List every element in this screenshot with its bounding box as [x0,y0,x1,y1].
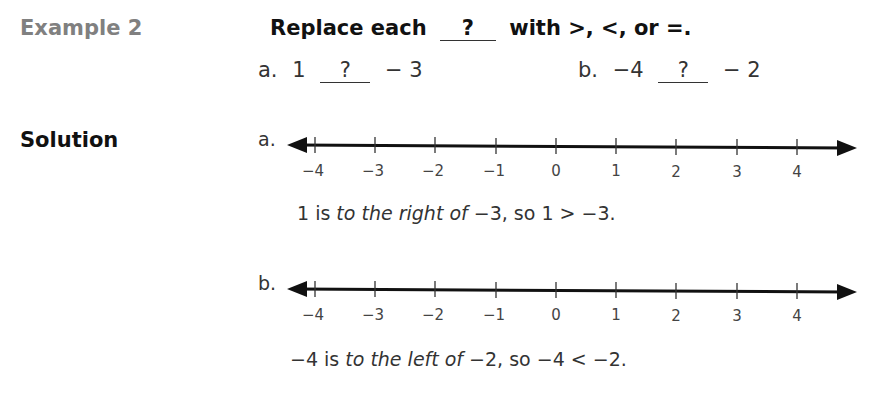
svg-text:−3: −3 [362,306,384,324]
svg-text:3: 3 [732,163,742,181]
svg-text:1: 1 [611,162,621,180]
right-arrow-icon [837,140,857,156]
solution-a-explanation: 1 is to the right of −3, so 1 > −3. [297,202,616,224]
svg-text:2: 2 [671,163,681,181]
explanation-a-end: −3, so 1 > −3. [468,202,616,224]
problem-b-label: b. [578,58,598,82]
problem-a-left: 1 [292,58,305,82]
svg-text:−1: −1 [483,306,505,324]
svg-text:−2: −2 [422,162,444,180]
svg-text:−2: −2 [422,306,444,324]
instruction-blank: ? [440,16,496,41]
instruction-suffix: with >, <, or =. [509,16,691,40]
problem-a-blank: ? [320,58,370,83]
number-line-a-graphic [287,137,857,156]
explanation-b-italic: to the left of [345,348,463,370]
left-arrow-icon [287,281,307,297]
problem-a-right: − 3 [385,58,423,82]
svg-text:1: 1 [611,306,621,324]
svg-text:3: 3 [732,307,742,325]
solution-b-explanation: −4 is to the left of −2, so −4 < −2. [290,348,627,370]
tick-labels-b: −4 −3 −2 −1 0 1 2 3 4 [302,306,802,325]
svg-text:−4: −4 [302,162,324,180]
problem-a-label: a. [258,58,278,82]
svg-text:−3: −3 [362,162,384,180]
explanation-b-end: −2, so −4 < −2. [463,348,627,370]
tick-labels-a: −4 −3 −2 −1 0 1 2 3 4 [302,162,802,181]
right-arrow-icon [837,284,857,300]
problem-b-right: − 2 [723,58,761,82]
problem-b-blank: ? [658,58,708,83]
svg-text:4: 4 [792,163,802,181]
svg-text:0: 0 [551,162,561,180]
explanation-a-start: 1 is [297,202,336,224]
svg-text:2: 2 [671,307,681,325]
problem-b: b. −4 ? − 2 [578,58,761,83]
solution-label: Solution [20,128,118,152]
left-arrow-icon [287,137,307,153]
problem-b-left: −4 [613,58,644,82]
number-line-b: −4 −3 −2 −1 0 1 2 3 4 [285,272,875,328]
solution-a-label: a. [258,128,276,150]
example-label: Example 2 [20,16,142,40]
explanation-a-italic: to the right of [336,202,467,224]
svg-text:0: 0 [551,306,561,324]
solution-b-label: b. [258,272,276,294]
svg-text:−4: −4 [302,306,324,324]
svg-text:4: 4 [792,307,802,325]
svg-text:−1: −1 [483,162,505,180]
problem-a: a. 1 ? − 3 [258,58,423,83]
instruction: Replace each ? with >, <, or =. [270,16,692,41]
number-line-b-graphic [287,281,857,300]
explanation-b-start: −4 is [290,348,345,370]
number-line-a: −4 −3 −2 −1 0 1 2 3 4 [285,128,875,184]
instruction-prefix: Replace each [270,16,427,40]
